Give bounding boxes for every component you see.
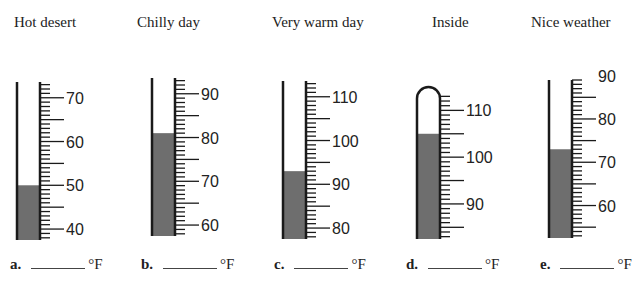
answer-blank-c[interactable]: [294, 258, 348, 269]
answer-e: e.°F: [540, 256, 632, 273]
scale-label-e: 70: [598, 154, 616, 171]
answer-a: a.°F: [10, 256, 103, 273]
answer-c: c.°F: [274, 256, 366, 273]
thermometer-e: 90807060: [549, 68, 616, 238]
scale-label-a: 40: [66, 221, 84, 238]
answer-unit-d: °F: [485, 256, 499, 272]
scale-label-d: 90: [466, 196, 484, 213]
answer-d: d.°F: [406, 256, 499, 273]
mercury-fill-e: [549, 149, 572, 238]
scale-label-a: 50: [66, 177, 84, 194]
thermometer-a: 70605040: [17, 82, 84, 240]
answer-blank-d[interactable]: [428, 258, 482, 269]
scale-label-d: 110: [466, 102, 492, 119]
scale-label-e: 90: [598, 68, 616, 85]
scale-label-c: 100: [332, 133, 359, 150]
answer-letter-c: c.: [274, 256, 284, 272]
mercury-fill-a: [17, 185, 40, 240]
scale-label-c: 80: [332, 220, 350, 237]
thermometer-b: 90807060: [152, 78, 219, 236]
answer-letter-e: e.: [540, 256, 550, 272]
answer-unit-b: °F: [220, 256, 234, 272]
scale-label-b: 80: [201, 130, 219, 147]
thermometers-figure: 7060504090807060110100908011010090908070…: [0, 0, 640, 289]
answer-blank-e[interactable]: [560, 258, 614, 269]
answer-unit-c: °F: [351, 256, 365, 272]
thermometer-d: 11010090: [417, 87, 493, 239]
scale-label-e: 60: [598, 198, 616, 215]
answer-unit-a: °F: [88, 256, 102, 272]
scale-label-c: 90: [332, 176, 350, 193]
answer-letter-b: b.: [141, 256, 153, 272]
answer-blank-a[interactable]: [31, 258, 85, 269]
answer-letter-a: a.: [10, 256, 21, 272]
answer-blank-b[interactable]: [163, 258, 217, 269]
scale-label-a: 70: [66, 90, 84, 107]
thermometer-c: 1101009080: [283, 81, 359, 239]
answer-letter-d: d.: [406, 256, 418, 272]
scale-label-c: 110: [332, 89, 358, 106]
scale-label-a: 60: [66, 134, 84, 151]
answer-b: b.°F: [141, 256, 234, 273]
scale-label-b: 90: [201, 86, 219, 103]
scale-label-b: 60: [201, 217, 219, 234]
scale-label-d: 100: [466, 149, 493, 166]
mercury-fill-c: [283, 171, 306, 239]
mercury-fill-d: [417, 134, 440, 239]
answer-unit-e: °F: [617, 256, 631, 272]
scale-label-e: 80: [598, 111, 616, 128]
scale-label-b: 70: [201, 173, 219, 190]
mercury-fill-b: [152, 133, 175, 236]
